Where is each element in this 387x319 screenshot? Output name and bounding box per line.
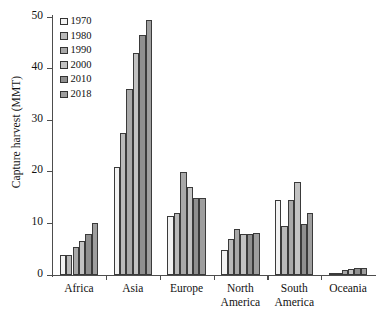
plot-area — [52, 17, 375, 275]
x-axis-label-oceania: Oceania — [321, 282, 375, 296]
y-tick-label: 30 — [32, 112, 44, 124]
legend-item-2010: 2010 — [60, 72, 92, 87]
legend-swatch-2018 — [60, 91, 68, 99]
x-axis-label-africa: Africa — [52, 282, 106, 296]
bar-asia-2018 — [146, 20, 152, 275]
legend-item-2018: 2018 — [60, 87, 92, 102]
chart-legend: 197019801990200020102018 — [60, 14, 92, 102]
legend-item-1990: 1990 — [60, 43, 92, 58]
legend-swatch-2000 — [60, 61, 68, 69]
legend-label: 1970 — [71, 16, 92, 27]
x-axis-label-asia: Asia — [106, 282, 160, 296]
bar-oceania-2018 — [361, 268, 367, 275]
bar-africa-2018 — [92, 223, 98, 275]
x-axis-label-north-america: North America — [214, 282, 268, 309]
legend-label: 1980 — [71, 31, 92, 42]
x-axis-label-south-america: South America — [267, 282, 321, 309]
legend-label: 2010 — [71, 74, 92, 85]
bar-south-america-2018 — [307, 213, 313, 275]
x-axis-label-europe: Europe — [160, 282, 214, 296]
bar-group-north-america — [221, 17, 259, 275]
bar-europe-2018 — [199, 198, 205, 275]
bar-group-europe — [167, 17, 205, 275]
y-tick-label: 10 — [32, 215, 44, 227]
legend-swatch-2010 — [60, 76, 68, 84]
legend-item-2000: 2000 — [60, 58, 92, 73]
legend-item-1980: 1980 — [60, 29, 92, 44]
y-tick-label: 50 — [32, 9, 44, 21]
x-tick-divider — [160, 275, 161, 280]
y-axis-title: Capture harvest (MMT) — [10, 42, 22, 222]
bar-group-south-america — [275, 17, 313, 275]
x-tick-divider — [267, 275, 268, 280]
x-tick-divider — [321, 275, 322, 280]
legend-swatch-1970 — [60, 18, 68, 26]
legend-label: 1990 — [71, 45, 92, 56]
legend-label: 2018 — [71, 89, 92, 100]
y-tick-label: 40 — [32, 60, 44, 72]
legend-item-1970: 1970 — [60, 14, 92, 29]
bar-north-america-2018 — [253, 233, 259, 275]
x-tick-divider — [214, 275, 215, 280]
legend-swatch-1990 — [60, 47, 68, 55]
bar-group-asia — [114, 17, 152, 275]
y-tick-label: 0 — [37, 267, 43, 279]
capture-harvest-bar-chart: Capture harvest (MMT) 01020304050 Africa… — [0, 0, 387, 319]
bar-group-oceania — [329, 17, 367, 275]
x-tick-divider — [106, 275, 107, 280]
y-tick-label: 20 — [32, 163, 44, 175]
legend-swatch-1980 — [60, 32, 68, 40]
legend-label: 2000 — [71, 60, 92, 71]
